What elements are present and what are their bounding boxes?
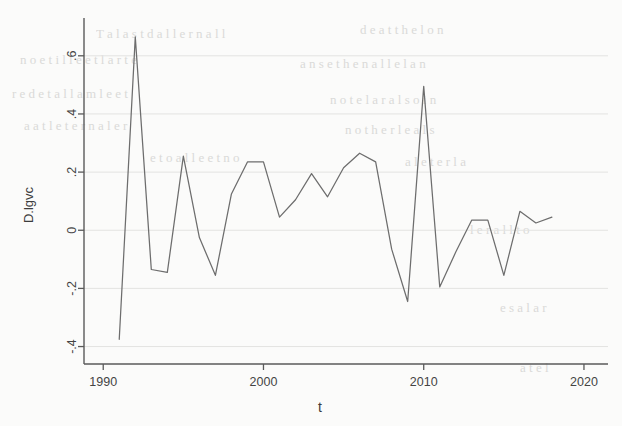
x-axis-ticks — [103, 364, 584, 370]
y-tick-label: -.4 — [65, 339, 79, 354]
data-series-line — [119, 37, 552, 339]
gridlines — [84, 56, 608, 347]
x-tick-label: 2010 — [410, 375, 438, 389]
y-axis-tick-labels: -.4-.20.2.4.6 — [65, 51, 79, 354]
chart-figure: -.4-.20.2.4.6 1990200020102020 D.lgvc t — [0, 0, 622, 426]
y-tick-label: .4 — [65, 109, 79, 119]
x-tick-label: 1990 — [89, 375, 117, 389]
y-axis-title: D.lgvc — [21, 186, 36, 223]
y-tick-label: .2 — [65, 167, 79, 177]
x-axis-title: t — [318, 399, 322, 415]
x-axis-tick-labels: 1990200020102020 — [89, 375, 598, 389]
x-tick-label: 2000 — [250, 375, 278, 389]
y-tick-label: 0 — [65, 227, 79, 234]
chart-svg: -.4-.20.2.4.6 1990200020102020 D.lgvc t — [0, 0, 622, 426]
y-tick-label: .6 — [65, 51, 79, 61]
y-axis-ticks — [78, 56, 84, 347]
y-tick-label: -.2 — [65, 281, 79, 296]
x-tick-label: 2020 — [570, 375, 598, 389]
